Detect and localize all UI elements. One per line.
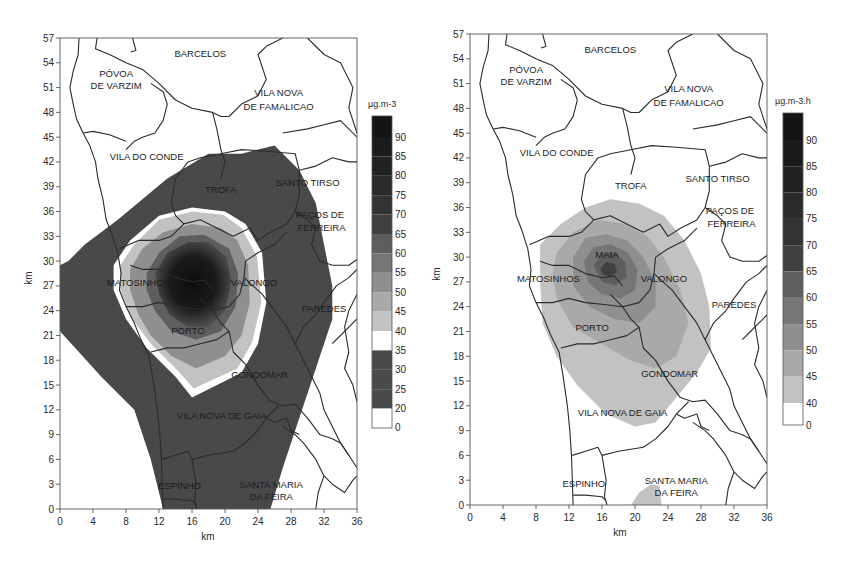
y-tick-label: 42 (43, 156, 55, 167)
colorbar-label: 35 (395, 345, 407, 356)
y-tick-label: 0 (48, 504, 54, 515)
x-tick-label: 20 (219, 516, 231, 527)
left-panel: 036912151821242730333639424548515457 048… (23, 33, 407, 543)
municipal-border (541, 34, 546, 48)
left-y-axis-title: km (23, 271, 34, 284)
y-tick-label: 6 (48, 454, 54, 465)
colorbar-label: 75 (806, 213, 818, 224)
y-tick-label: 0 (458, 500, 464, 511)
y-tick-label: 51 (43, 82, 55, 93)
place-label: BARCELOS (174, 48, 226, 59)
x-tick-label: 0 (57, 516, 63, 527)
colorbar-label: 25 (395, 384, 407, 395)
y-tick-label: 45 (453, 128, 465, 139)
place-label: PÓVOA (99, 68, 133, 79)
y-tick-label: 36 (43, 206, 55, 217)
municipal-border (726, 472, 734, 505)
y-tick-label: 36 (453, 202, 465, 213)
colorbar-label: 50 (806, 345, 818, 356)
y-tick-label: 12 (453, 400, 465, 411)
colorbar-band (372, 195, 392, 214)
y-tick-label: 21 (43, 330, 55, 341)
colorbar-label: 45 (395, 306, 407, 317)
colorbar-label: 80 (806, 187, 818, 198)
figure: 036912151821242730333639424548515457 048… (0, 0, 844, 563)
municipal-border (308, 38, 358, 133)
colorbar-label: 65 (806, 266, 818, 277)
colorbar-label: 45 (806, 371, 818, 382)
colorbar-label: 40 (806, 398, 818, 409)
colorbar-label: 90 (806, 135, 818, 146)
municipal-border (332, 319, 357, 344)
x-tick-label: 28 (695, 512, 707, 523)
colorbar-band (372, 409, 392, 428)
y-tick-label: 51 (453, 78, 465, 89)
place-label: VILA NOVA DE GAIA (578, 407, 668, 418)
right-y-axis: 036912151821242730333639424548515457 (453, 29, 470, 511)
colorbar-band (783, 219, 803, 245)
x-tick-label: 12 (153, 516, 165, 527)
right-x-axis-title: km (613, 527, 626, 538)
x-tick-label: 36 (761, 512, 773, 523)
y-tick-label: 57 (43, 33, 55, 44)
x-tick-label: 16 (186, 516, 198, 527)
place-label: MAIA (595, 249, 619, 260)
y-tick-label: 42 (453, 152, 465, 163)
place-label: MATOSINHOS (107, 277, 170, 288)
colorbar-band (783, 377, 803, 403)
place-label: VILA DO CONDE (520, 147, 594, 158)
y-tick-label: 27 (43, 280, 55, 291)
colorbar-band (372, 312, 392, 331)
place-label: PORTO (575, 322, 608, 333)
y-tick-label: 21 (453, 326, 465, 337)
y-tick-label: 45 (43, 132, 55, 143)
municipal-border (131, 38, 136, 52)
y-tick-label: 27 (453, 276, 465, 287)
left-colorbar: 9085807570656055504540353025200 (372, 116, 407, 433)
y-tick-label: 9 (48, 429, 54, 440)
x-tick-label: 4 (90, 516, 96, 527)
colorbar-band (372, 176, 392, 195)
place-label: GONDOMAR (231, 369, 288, 380)
right-contours (540, 199, 711, 505)
colorbar-label: 55 (395, 267, 407, 278)
x-tick-label: 24 (662, 512, 674, 523)
place-label: SANTO TIRSO (275, 177, 339, 188)
place-label: VALONGO (231, 277, 277, 288)
municipal-border (718, 34, 768, 129)
municipal-border (676, 414, 709, 431)
y-tick-label: 30 (453, 252, 465, 263)
colorbar-label: 55 (806, 319, 818, 330)
municipal-border (316, 476, 324, 509)
y-tick-label: 12 (43, 404, 55, 415)
colorbar-label: 70 (395, 209, 407, 220)
y-tick-label: 15 (43, 380, 55, 391)
place-label: PAÇOS DE (706, 205, 754, 216)
place-label: SANTA MARIA (645, 475, 709, 486)
place-label: PORTO (171, 325, 204, 336)
place-label: VILA NOVA DE GAIA (177, 410, 267, 421)
place-label: DA FEIRA (250, 491, 294, 502)
place-label: DE VARZIM (501, 76, 552, 87)
right-x-axis: 04812162024283236 (467, 505, 773, 523)
colorbar-band (783, 403, 803, 425)
colorbar-label: 80 (395, 170, 407, 181)
y-tick-label: 48 (453, 103, 465, 114)
place-label: SANTO TIRSO (685, 173, 749, 184)
colorbar-band (783, 324, 803, 350)
colorbar-band (372, 137, 392, 156)
x-tick-label: 12 (563, 512, 575, 523)
place-label: PAREDES (302, 303, 347, 314)
left-colorbar-unit: µg.m-3 (368, 99, 396, 109)
y-tick-label: 30 (43, 256, 55, 267)
x-tick-label: 0 (467, 512, 473, 523)
colorbar-label: 0 (806, 420, 812, 431)
right-y-axis-title: km (431, 267, 442, 280)
place-label: PAREDES (712, 299, 757, 310)
colorbar-label: 60 (806, 292, 818, 303)
colorbar-band (783, 350, 803, 376)
y-tick-label: 6 (458, 450, 464, 461)
colorbar-label: 65 (395, 229, 407, 240)
place-label: GONDOMAR (641, 368, 698, 379)
place-label: ESPINHO (158, 480, 201, 491)
